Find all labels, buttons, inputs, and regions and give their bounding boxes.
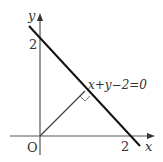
y-intercept-label: 2 — [29, 37, 37, 52]
origin-label: O — [27, 140, 38, 155]
x-axis-label: x — [145, 139, 153, 154]
y-axis-arrow-icon — [37, 13, 43, 21]
x-intercept-label: 2 — [121, 139, 129, 154]
perpendicular-segment — [40, 91, 85, 136]
coordinate-diagram: y 2 x+y−2=0 O 2 x — [0, 0, 163, 162]
equation-label: x+y−2=0 — [88, 78, 147, 92]
right-angle-marker — [80, 96, 90, 101]
y-axis-label: y — [27, 8, 36, 23]
